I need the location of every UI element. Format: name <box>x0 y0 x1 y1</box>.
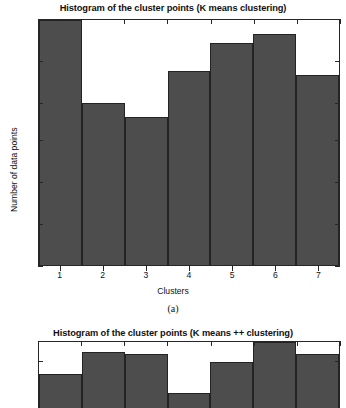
figure-two-histograms: Histogram of the cluster points (K means… <box>0 0 346 408</box>
y-tick-mark <box>38 140 43 141</box>
y-tick-mark-right <box>335 61 340 62</box>
histogram-panel-b: Histogram of the cluster points (K means… <box>0 325 346 408</box>
y-tick-mark-right <box>335 103 340 104</box>
x-tick-mark-top <box>297 341 298 346</box>
x-tick-label: 1 <box>45 270 75 280</box>
bar-cluster-3 <box>125 354 168 408</box>
bar-cluster-7 <box>296 354 339 408</box>
x-tick-label: 5 <box>217 270 247 280</box>
chart-a-x-axis-title: Clusters <box>0 286 346 296</box>
y-tick-mark <box>38 266 43 267</box>
histogram-panel-a: Histogram of the cluster points (K means… <box>0 0 346 325</box>
bar-cluster-5 <box>210 43 253 265</box>
y-tick-mark-right <box>335 361 340 362</box>
chart-b-title: Histogram of the cluster points (K means… <box>0 328 346 338</box>
chart-a-axes-box <box>38 19 340 266</box>
y-tick-mark <box>38 61 43 62</box>
x-tick-mark-top <box>340 341 341 346</box>
x-tick-mark-top <box>297 19 298 24</box>
bar-cluster-3 <box>125 117 168 265</box>
bar-cluster-4 <box>168 71 211 265</box>
x-tick-label: 7 <box>303 270 333 280</box>
bar-cluster-6 <box>253 342 296 408</box>
x-tick-mark-top <box>167 19 168 24</box>
chart-a-y-axis-title: Number of data points <box>9 127 19 212</box>
chart-a-plot-area: 091827354453 1234567 <box>38 19 340 266</box>
x-tick-mark-top <box>340 19 341 24</box>
x-tick-mark-top <box>167 341 168 346</box>
y-tick-mark-right <box>335 266 340 267</box>
chart-b-plot-area: 4351 <box>38 341 340 408</box>
x-tick-mark-top <box>211 341 212 346</box>
y-tick-mark-right <box>335 224 340 225</box>
bar-cluster-2 <box>82 103 125 265</box>
x-tick-mark-top <box>254 341 255 346</box>
x-tick-mark-top <box>81 19 82 24</box>
bar-cluster-6 <box>253 34 296 265</box>
chart-a-bars <box>39 20 339 265</box>
bar-cluster-1 <box>39 20 82 265</box>
bar-cluster-1 <box>39 374 82 408</box>
chart-a-title: Histogram of the cluster points (K means… <box>0 3 346 13</box>
x-tick-label: 3 <box>131 270 161 280</box>
chart-a-subcaption: (a) <box>0 303 346 314</box>
y-tick-mark-right <box>335 140 340 141</box>
x-tick-label: 6 <box>260 270 290 280</box>
x-tick-label: 4 <box>174 270 204 280</box>
chart-b-axes-box <box>38 341 340 408</box>
y-tick-mark <box>38 103 43 104</box>
bar-cluster-2 <box>82 352 125 408</box>
y-tick-mark-right <box>335 182 340 183</box>
y-tick-mark <box>38 361 43 362</box>
chart-b-bars <box>39 342 339 408</box>
x-tick-mark-top <box>81 341 82 346</box>
x-tick-mark-top <box>124 341 125 346</box>
bar-cluster-7 <box>296 75 339 265</box>
bar-cluster-5 <box>210 362 253 408</box>
x-tick-mark-top <box>254 19 255 24</box>
x-tick-label: 2 <box>88 270 118 280</box>
bar-cluster-4 <box>168 393 211 408</box>
y-tick-mark <box>38 182 43 183</box>
x-tick-mark-top <box>124 19 125 24</box>
x-tick-mark-top <box>38 19 39 24</box>
x-tick-mark-top <box>211 19 212 24</box>
x-tick-mark-top <box>38 341 39 346</box>
y-tick-mark <box>38 224 43 225</box>
